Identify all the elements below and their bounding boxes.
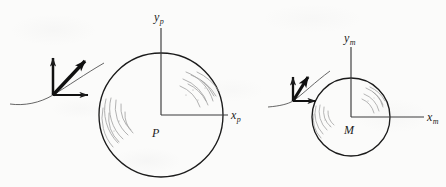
secondary-axis-group bbox=[351, 47, 424, 117]
primary-trajectory-curve bbox=[10, 63, 104, 105]
primary-x-axis-label: xp bbox=[231, 109, 241, 124]
secondary-x-axis-label: xm bbox=[427, 111, 438, 126]
primary-axis-group bbox=[161, 28, 228, 115]
secondary-hatch-upper-right bbox=[362, 87, 385, 113]
diagram-vector-layer bbox=[0, 0, 446, 187]
secondary-vector-cluster bbox=[268, 71, 330, 107]
secondary-body-label: M bbox=[344, 124, 354, 136]
secondary-y-axis-label: ym bbox=[344, 32, 355, 47]
primary-hatch-upper-right bbox=[180, 72, 219, 107]
primary-y-axis-label: yp bbox=[154, 11, 164, 26]
secondary-hatch-left bbox=[313, 105, 334, 138]
secondary-velocity-vector bbox=[293, 77, 308, 101]
primary-vector-cluster bbox=[10, 58, 104, 105]
primary-body-label: P bbox=[152, 127, 159, 139]
primary-hatch-left bbox=[102, 98, 133, 147]
diagram-canvas: yp xp ym xm P M bbox=[0, 0, 446, 187]
